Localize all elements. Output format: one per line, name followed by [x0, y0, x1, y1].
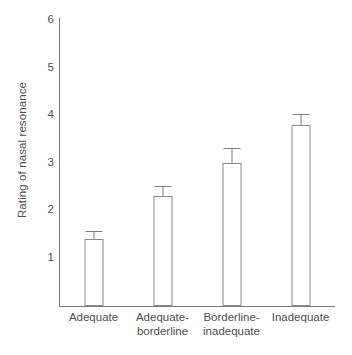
y-axis-title: Rating of nasal resonance: [10, 0, 34, 300]
x-axis-tick-labels: AdequateAdequate-borderlineBorderline-in…: [59, 311, 335, 351]
error-bar-cap-2: [154, 186, 171, 187]
bar-group: [200, 18, 264, 306]
y-tick-label-6: 6: [38, 14, 54, 26]
bar-1: [84, 239, 103, 306]
error-bar-line-1: [93, 232, 94, 239]
y-tick-label-5: 5: [38, 62, 54, 74]
x-tick-label-line: inadequate: [188, 325, 276, 339]
bar-group: [269, 18, 333, 306]
y-axis-title-text: Rating of nasal resonance: [16, 82, 28, 218]
y-tick-label-2: 2: [38, 205, 54, 217]
bar-group: [62, 18, 126, 306]
error-bar-cap-3: [223, 148, 240, 149]
error-bar-line-4: [300, 115, 301, 125]
error-bar-cap-1: [85, 231, 102, 232]
bar-2: [153, 196, 172, 306]
y-tick-label-1: 1: [38, 252, 54, 264]
y-tick-label-4: 4: [38, 109, 54, 121]
y-tick-label-3: 3: [38, 157, 54, 169]
error-bar-line-3: [231, 149, 232, 163]
bar-4: [291, 125, 310, 306]
nasal-resonance-bar-chart: Rating of nasal resonance 123456 Adequat…: [0, 0, 352, 355]
plot-area: [59, 18, 335, 306]
bar-3: [222, 163, 241, 306]
error-bar-cap-4: [292, 114, 309, 115]
bar-group: [131, 18, 195, 306]
x-tick-label-line: Inadequate: [257, 311, 345, 325]
x-axis-line: [59, 306, 335, 307]
x-tick-label-4: Inadequate: [257, 311, 345, 325]
error-bar-line-2: [162, 187, 163, 197]
